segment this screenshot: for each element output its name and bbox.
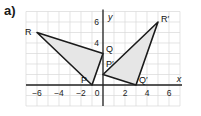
x-tick-label: 2	[123, 88, 128, 98]
x-tick-label: 6	[167, 88, 172, 98]
x-tick-label: 4	[145, 88, 150, 98]
x-tick-label: 0	[95, 88, 100, 98]
x-axis-label: x	[176, 74, 182, 84]
vertex-label: Q′	[139, 75, 148, 85]
x-tick-label: −2	[76, 88, 86, 98]
y-tick-label: 4	[94, 38, 99, 48]
vertex-label: P	[81, 75, 87, 85]
vertex-label: R	[25, 27, 32, 37]
vertex-label: P′	[106, 59, 114, 69]
y-tick-label: 6	[94, 17, 99, 27]
vertex-label: R′	[161, 14, 169, 24]
y-axis-label: y	[107, 12, 113, 22]
coordinate-grid: −6−4−2024646xyPQRP′Q′R′	[0, 0, 201, 116]
x-tick-label: −6	[32, 88, 42, 98]
vertex-label: Q	[106, 44, 113, 54]
x-tick-label: −4	[54, 88, 64, 98]
axes	[26, 10, 182, 107]
